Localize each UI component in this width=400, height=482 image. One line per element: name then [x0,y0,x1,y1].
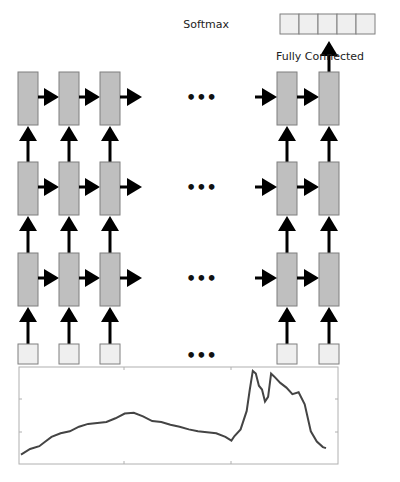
input-node [18,344,38,364]
input-node [277,344,297,364]
recurrent-grid [18,72,339,364]
ellipsis-layer-2: ••• [186,178,217,197]
fully-connected-label: Fully Connected [276,50,364,63]
lstm-cell [277,72,297,125]
ellipsis-inputs: ••• [186,346,217,365]
lstm-cell [277,253,297,306]
lstm-cell [59,162,79,215]
softmax-label: Softmax [183,18,229,31]
softmax-cell [280,14,299,34]
lstm-cell [319,162,339,215]
ellipsis-layer-1: ••• [186,88,217,107]
lstm-cell [18,72,38,125]
lstm-cell [319,72,339,125]
lstm-cell [100,162,120,215]
lstm-cell [100,72,120,125]
lstm-cell [319,253,339,306]
lstm-diagram: Softmax Fully Connected ••• ••• ••• ••• [0,0,400,482]
lstm-cell [59,72,79,125]
softmax-output [280,14,375,34]
lstm-cell [59,253,79,306]
signal-line [21,371,326,455]
softmax-cell [337,14,356,34]
softmax-cell [356,14,375,34]
lstm-cell [100,253,120,306]
chart-frame [19,367,338,464]
input-node [59,344,79,364]
softmax-cell [318,14,337,34]
input-node [319,344,339,364]
input-node [100,344,120,364]
ellipsis-layer-3: ••• [186,269,217,288]
lstm-cell [277,162,297,215]
softmax-cell [299,14,318,34]
signal-chart [19,367,338,464]
lstm-cell [18,162,38,215]
lstm-cell [18,253,38,306]
